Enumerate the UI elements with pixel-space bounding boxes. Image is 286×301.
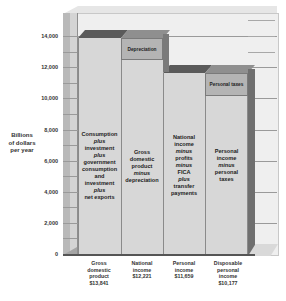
annotation-line: minus <box>218 162 234 168</box>
x-axis-line <box>63 254 255 256</box>
band-personal-taxes: Personal taxes <box>205 73 248 96</box>
gridline-minor <box>63 114 77 115</box>
annotation-line: National <box>163 134 205 141</box>
gridline-minor <box>63 83 77 84</box>
annotation-line: minus <box>176 162 192 168</box>
bar-annotation-gdp: Consumption plus investment plus governm… <box>78 131 121 201</box>
y-tick: 2,000 <box>0 220 58 226</box>
annotation-line: net exports <box>78 194 121 201</box>
x-label-disposable-income: Disposable personal income $10,177 <box>202 260 254 286</box>
annotation-line: personal <box>205 169 248 176</box>
y-tick: 14,000 <box>0 33 58 39</box>
annotation-line: transfer <box>163 183 205 190</box>
annotation-line: plus <box>94 138 106 144</box>
chart-left-wall-inner <box>70 13 77 254</box>
annotation-line: Gross <box>121 149 163 156</box>
y-tick: 6,000 <box>0 158 58 164</box>
x-label-line: income <box>202 273 254 280</box>
annotation-line: payments <box>163 190 205 197</box>
bar-annotation-personal-income: National income minus profits minus FICA… <box>163 134 205 197</box>
x-label-line: $10,177 <box>202 280 254 287</box>
annotation-line: investment <box>78 145 121 152</box>
annotation-line: government <box>78 159 121 166</box>
x-label-line: personal <box>202 267 254 274</box>
annotation-line: taxes <box>205 176 248 183</box>
annotation-line: investment <box>78 180 121 187</box>
bar-top-personal-income <box>163 65 212 73</box>
annotation-line: profits <box>163 155 205 162</box>
annotation-line: consumption <box>78 166 121 173</box>
annotation-line: minus <box>176 148 192 154</box>
bar-annotation-national-income: Gross domestic product minus depreciatio… <box>121 149 163 184</box>
annotation-line: plus <box>178 176 190 182</box>
bar-side-face <box>163 34 169 72</box>
gridline-minor <box>63 145 77 146</box>
annotation-line: plus <box>94 187 106 193</box>
annotation-line: product <box>121 163 163 170</box>
x-label-line: $13,841 <box>74 280 124 287</box>
y-tick: 0 <box>0 251 58 257</box>
gridline-back <box>248 52 275 53</box>
annotation-line: domestic <box>121 156 163 163</box>
y-tick: 10,000 <box>0 95 58 101</box>
gridline-minor <box>63 207 77 208</box>
annotation-line: and <box>78 173 121 180</box>
y-axis-label-line: of dollars <box>2 140 42 148</box>
y-axis-label-line: Billions <box>2 132 42 140</box>
gridline-minor <box>63 176 77 177</box>
y-axis-label-line: per year <box>2 147 42 155</box>
gridline-back <box>248 20 275 21</box>
annotation-line: income <box>205 155 248 162</box>
gridline-minor <box>63 52 77 53</box>
annotation-line: Consumption <box>78 131 121 138</box>
annotation-line: plus <box>94 152 106 158</box>
annotation-line: depreciation <box>121 177 163 184</box>
bar-side-face <box>248 69 255 254</box>
y-tick: 12,000 <box>0 64 58 70</box>
annotation-line: minus <box>134 170 150 176</box>
band-depreciation: Depreciation <box>121 38 163 60</box>
gridline-back <box>248 36 275 37</box>
bar-top-gdp <box>78 30 128 38</box>
annotation-line: income <box>163 141 205 148</box>
annotation-line: FICA <box>163 169 205 176</box>
x-label-line: Disposable <box>202 260 254 267</box>
y-tick: 4,000 <box>0 189 58 195</box>
gridline-minor <box>63 238 77 239</box>
bar-annotation-disposable-income: Personal income minus personal taxes <box>205 148 248 183</box>
annotation-line: Personal <box>205 148 248 155</box>
y-axis-label: Billions of dollars per year <box>2 132 42 155</box>
